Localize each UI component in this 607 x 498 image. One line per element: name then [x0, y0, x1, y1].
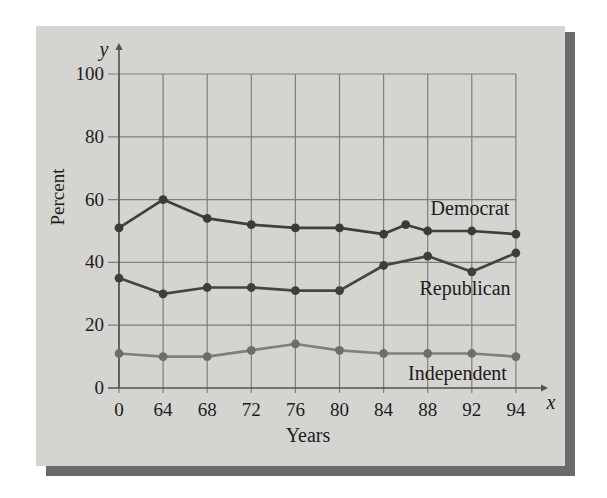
republican-point-92 — [467, 267, 476, 276]
independent-point-64 — [159, 352, 168, 361]
x-axis-title: Years — [248, 424, 368, 446]
republican-point-68 — [203, 283, 212, 292]
independent-point-72 — [247, 346, 256, 355]
independent-point-0 — [115, 349, 124, 358]
independent-point-94 — [512, 352, 521, 361]
democrat-point-72 — [247, 220, 256, 229]
democrat-point-92 — [467, 227, 476, 236]
independent-point-92 — [467, 349, 476, 358]
republican-point-88 — [423, 252, 432, 261]
independent-series-label: Independent — [397, 362, 518, 384]
x-tick-label-80: 80 — [318, 399, 362, 421]
republican-series-label: Republican — [405, 277, 525, 299]
x-axis-variable: x — [539, 391, 563, 413]
y-tick-label-100: 100 — [62, 63, 104, 85]
republican-point-72 — [247, 283, 256, 292]
x-tick-label-84: 84 — [362, 399, 406, 421]
republican-point-94 — [512, 249, 521, 258]
republican-point-76 — [291, 286, 300, 295]
x-tick-label-76: 76 — [273, 399, 317, 421]
democrat-point-64 — [159, 195, 168, 204]
republican-point-80 — [335, 286, 344, 295]
y-axis-title: Percent — [47, 137, 69, 257]
democrat-point-94 — [512, 230, 521, 239]
x-tick-label-72: 72 — [229, 399, 273, 421]
y-tick-label-0: 0 — [62, 377, 104, 399]
republican-point-64 — [159, 289, 168, 298]
independent-line — [119, 344, 516, 357]
independent-point-76 — [291, 340, 300, 349]
x-tick-label-64: 64 — [141, 399, 185, 421]
independent-point-80 — [335, 346, 344, 355]
textbook-figure: 0204060801000646872768084889294 y x Perc… — [0, 0, 607, 498]
y-axis-arrowhead — [115, 43, 122, 50]
independent-point-84 — [379, 349, 388, 358]
republican-point-0 — [115, 274, 124, 283]
x-tick-label-68: 68 — [185, 399, 229, 421]
democrat-point-88 — [423, 227, 432, 236]
x-tick-label-94: 94 — [494, 399, 538, 421]
democrat-point-0 — [115, 224, 124, 233]
x-tick-label-88: 88 — [406, 399, 450, 421]
y-tick-label-20: 20 — [62, 314, 104, 336]
democrat-point-68 — [203, 214, 212, 223]
x-tick-label-92: 92 — [450, 399, 494, 421]
democrat-point-80 — [335, 224, 344, 233]
independent-point-88 — [423, 349, 432, 358]
independent-point-68 — [203, 352, 212, 361]
democrat-point-86 — [401, 220, 410, 229]
democrat-point-84 — [379, 230, 388, 239]
democrat-series-label: Democrat — [410, 197, 530, 219]
republican-point-84 — [379, 261, 388, 270]
democrat-point-76 — [291, 224, 300, 233]
x-tick-label-0: 0 — [97, 399, 141, 421]
y-axis-variable: y — [92, 38, 116, 60]
